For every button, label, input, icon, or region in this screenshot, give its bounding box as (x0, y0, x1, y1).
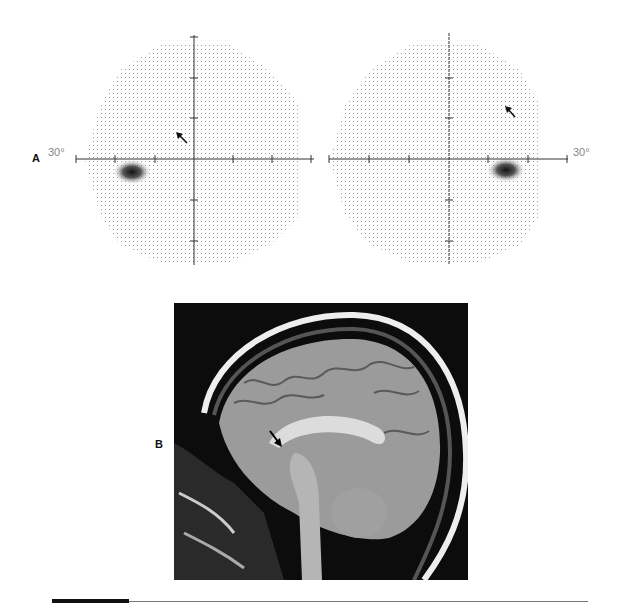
visual-field-plots (0, 0, 630, 300)
right-visual-field (329, 33, 568, 265)
footer-rule-accent (52, 599, 129, 603)
mri-image (174, 303, 468, 580)
panel-label-b: B (155, 438, 163, 450)
footer-rule (52, 601, 588, 602)
left-visual-field (76, 35, 314, 265)
